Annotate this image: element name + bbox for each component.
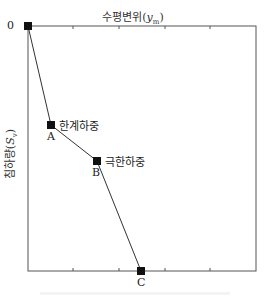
load-settlement-diagram: 수평변위(ym) 침하량(Sv) 0 A 한계하중 B 극한하중 C: [0, 0, 266, 299]
x-axis-title: 수평변위(ym): [0, 8, 266, 26]
x-axis-title-close: ): [159, 11, 163, 24]
y-axis-title: 침하량(Sv): [1, 114, 19, 194]
marker-b: [93, 157, 101, 165]
load-settlement-curve: [28, 26, 141, 271]
y-axis-var: S: [4, 137, 17, 145]
faint-caption-line: [40, 292, 230, 295]
y-axis-title-close: ): [4, 129, 17, 133]
marker-c: [137, 267, 145, 275]
x-axis-title-text: 수평변위(: [102, 11, 146, 24]
point-c-label: C: [137, 276, 145, 289]
point-b-annotation: 극한하중: [105, 153, 145, 169]
point-b-label: B: [92, 166, 100, 179]
y-axis-subscript: v: [11, 133, 19, 137]
plot-frame: [28, 26, 256, 271]
point-a-label: A: [47, 130, 55, 143]
point-o-label: 0: [7, 19, 14, 32]
marker-a: [47, 121, 55, 129]
diagram-canvas: [0, 0, 266, 299]
point-a-annotation: 한계하중: [59, 117, 99, 133]
y-axis-title-text: 침하량(: [4, 145, 17, 179]
